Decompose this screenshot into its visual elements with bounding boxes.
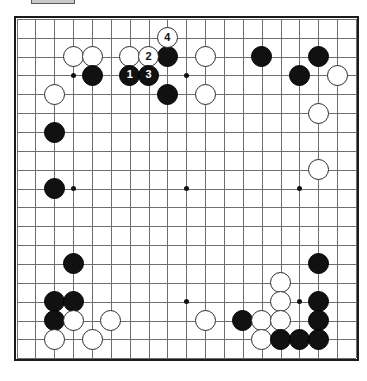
go-board[interactable]: 2413	[0, 0, 367, 381]
board-frame	[14, 16, 359, 361]
